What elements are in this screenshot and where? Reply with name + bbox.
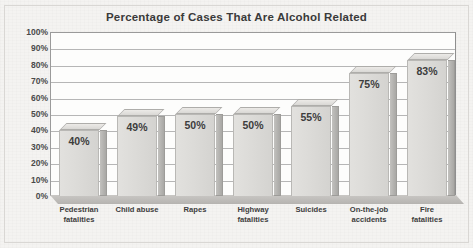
y-axis-tick-label: 80% [2, 60, 48, 70]
chart-floor-3d [50, 195, 464, 204]
bar-top-face-3d [118, 109, 165, 116]
bar-value-label: 40% [55, 135, 103, 147]
bar-value-label: 50% [229, 119, 277, 131]
y-axis-tick-label: 20% [2, 158, 48, 168]
x-axis-category-label-line: fatalities [221, 215, 285, 225]
bar-front-face [407, 60, 447, 196]
y-axis-tick-label: 50% [2, 109, 48, 119]
bar-side-face-3d [390, 73, 397, 196]
y-axis: 100%90%80%70%60%50%40%30%20%10%0% [0, 0, 48, 248]
x-axis-category-label: Pedestrianfatalities [47, 205, 111, 224]
bar-value-label: 83% [403, 65, 451, 77]
bar-top-face-3d [176, 107, 223, 114]
y-axis-tick-label: 0% [2, 191, 48, 201]
x-axis-category-label-line: fatalities [47, 215, 111, 225]
bar-top-face-3d [234, 107, 281, 114]
bar-top-face-3d [408, 53, 455, 60]
x-axis-category-label: On-the-jobaccidents [337, 205, 401, 224]
bar-front-face [349, 73, 389, 196]
x-axis-category-label: Child abuse [105, 205, 169, 215]
y-axis-tick-label: 30% [2, 142, 48, 152]
chart-image: Percentage of Cases That Are Alcohol Rel… [0, 0, 473, 248]
x-axis-category-label-line: Highway [221, 205, 285, 215]
x-axis-category-label-line: Fire [395, 205, 459, 215]
y-axis-tick-label: 10% [2, 175, 48, 185]
y-axis-tick-label: 70% [2, 76, 48, 86]
bar-value-label: 50% [171, 119, 219, 131]
y-axis-tick-label: 60% [2, 93, 48, 103]
x-axis-category-label-line: accidents [337, 215, 401, 225]
x-axis-category-label: Highwayfatalities [221, 205, 285, 224]
x-axis-category-label-line: Child abuse [105, 205, 169, 215]
y-axis-tick-label: 40% [2, 125, 48, 135]
x-axis-category-label: Suicides [279, 205, 343, 215]
y-axis-tick-label: 90% [2, 43, 48, 53]
x-axis-category-label: Firefatalities [395, 205, 459, 224]
bar [407, 60, 447, 196]
x-axis-category-label-line: Suicides [279, 205, 343, 215]
y-axis-tick-label: 100% [2, 27, 48, 37]
x-axis-category-label-line: On-the-job [337, 205, 401, 215]
x-axis-category-label-line: Rapes [163, 205, 227, 215]
x-axis-category-label: Rapes [163, 205, 227, 215]
x-axis-category-label-line: Pedestrian [47, 205, 111, 215]
bar-side-face-3d [448, 60, 455, 196]
x-axis-category-label-line: fatalities [395, 215, 459, 225]
chart-title: Percentage of Cases That Are Alcohol Rel… [0, 11, 473, 23]
gridline [51, 49, 455, 50]
bar [349, 73, 389, 196]
bar-value-label: 49% [113, 121, 161, 133]
bar-value-label: 55% [287, 111, 335, 123]
bar-value-label: 75% [345, 78, 393, 90]
bar-top-face-3d [350, 66, 397, 73]
bar-top-face-3d [60, 123, 107, 130]
bar-top-face-3d [292, 99, 339, 106]
